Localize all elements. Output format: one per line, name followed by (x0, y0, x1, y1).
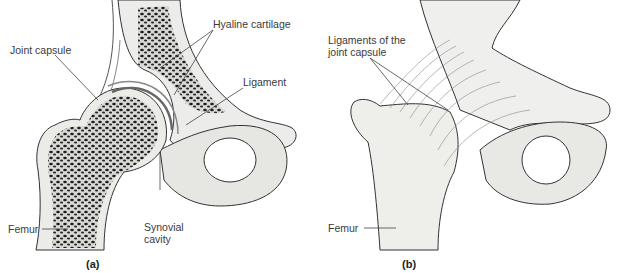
label-femur-a: Femur (8, 223, 38, 235)
label-ligament: Ligament (243, 76, 286, 88)
label-synovial-cavity-line1: Synovial (144, 221, 184, 233)
label-joint-capsule: Joint capsule (10, 44, 71, 56)
label-synovial-cavity-line2: cavity (144, 233, 171, 245)
caption-a: (a) (86, 258, 99, 270)
label-hyaline-cartilage: Hyaline cartilage (213, 18, 291, 30)
panel-a-frontal-section: Joint capsule Hyaline cartilage Ligament… (0, 0, 310, 273)
label-ligaments-line1: Ligaments of the (328, 34, 406, 46)
label-ligaments-line2: joint capsule (328, 46, 386, 58)
caption-b: (b) (402, 258, 416, 270)
label-femur-b: Femur (328, 222, 358, 234)
panel-b-anterior-view: Ligaments of the joint capsule Femur (b) (310, 0, 618, 273)
